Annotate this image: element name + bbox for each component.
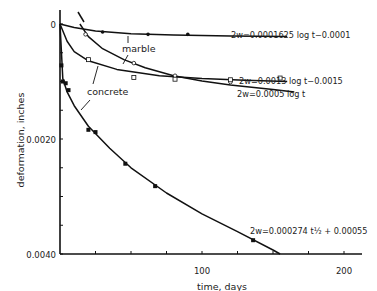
marker-filled-square	[251, 238, 255, 242]
y-tick-label: 0.0040	[26, 250, 56, 260]
marker-open-square	[86, 58, 90, 62]
concrete-arrow-down	[81, 100, 90, 110]
y-axis-label: deformation, inches	[15, 93, 26, 188]
x-tick-label: 200	[336, 266, 352, 276]
equation-label: 2w=0.0005 log t	[237, 89, 306, 99]
marker-open-circle	[84, 33, 88, 37]
concrete-arrow-up	[93, 66, 98, 84]
marker-filled-square	[153, 184, 157, 188]
marker-filled-circle	[186, 33, 190, 37]
y-tick-label: 0	[51, 20, 56, 30]
marker-open-circle	[132, 61, 136, 65]
annotation-concrete: concrete	[87, 86, 129, 97]
deformation-chart: 00.00200.0040100200time, daysdeformation…	[0, 0, 377, 291]
labels: 00.00200.0040100200time, daysdeformation…	[15, 20, 368, 291]
equation-label: 2w=0.0013 log t−0.0015	[239, 76, 343, 86]
marker-filled-circle	[146, 33, 150, 37]
marker-open-square	[228, 78, 232, 82]
annotation-marble: marble	[122, 43, 156, 54]
x-tick-label: 100	[194, 266, 210, 276]
marker-filled-circle	[101, 30, 105, 34]
equation-label: 2w=0.0001625 log t−0.0001	[231, 30, 350, 40]
marker-open-square	[132, 75, 136, 79]
marker-filled-square	[94, 130, 98, 134]
axes	[60, 10, 362, 254]
y-tick-label: 0.0020	[26, 135, 56, 145]
curve-concrete-3	[60, 24, 280, 254]
marker-filled-square	[123, 162, 127, 166]
marker-filled-square	[64, 81, 68, 85]
dash-segment	[78, 12, 84, 22]
marker-filled-square	[67, 88, 71, 92]
equation-label: 2w=0.000274 t½ + 0.00055	[250, 226, 368, 236]
x-axis-label: time, days	[197, 281, 247, 291]
marker-filled-square	[86, 128, 90, 132]
marker-filled-square	[59, 63, 63, 67]
marker-open-square	[173, 77, 177, 81]
